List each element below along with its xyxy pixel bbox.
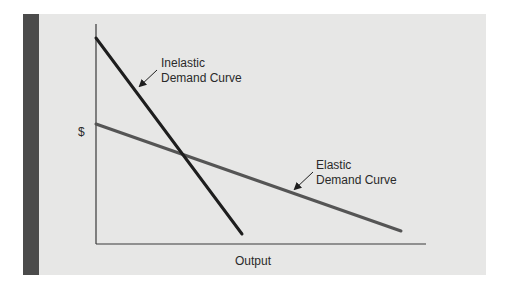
inelastic-label-line2: Demand Curve xyxy=(161,71,242,85)
y-axis-label: $ xyxy=(78,125,85,139)
elastic-arrow-icon xyxy=(295,172,313,189)
demand-curve-diagram: $ Output Inelastic Demand Curve Elastic … xyxy=(0,0,508,292)
elastic-label-line1: Elastic xyxy=(316,158,351,172)
x-axis-label: Output xyxy=(235,254,272,268)
inelastic-arrow-icon xyxy=(140,70,157,86)
inelastic-label-line1: Inelastic xyxy=(161,56,205,70)
elastic-label-line2: Demand Curve xyxy=(316,173,397,187)
